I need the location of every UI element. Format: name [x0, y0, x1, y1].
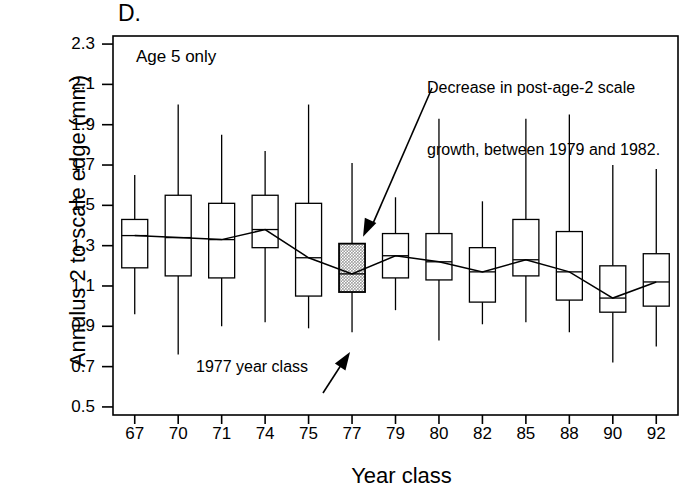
box — [296, 203, 322, 296]
box — [426, 234, 452, 280]
box — [513, 219, 539, 275]
box — [252, 195, 278, 247]
box — [643, 254, 669, 306]
year-class-annotation-arrow-head — [335, 352, 350, 370]
box — [165, 195, 191, 276]
box — [122, 219, 148, 267]
year-class-annotation-text: 1977 year class — [196, 357, 308, 378]
box — [209, 203, 235, 278]
decrease-annotation-text: Decrease in post-age-2 scale growth, bet… — [427, 36, 660, 202]
box — [556, 232, 582, 301]
series-note-label: Age 5 only — [136, 46, 216, 68]
box-highlighted — [339, 244, 365, 292]
decrease-annotation-line1: Decrease in post-age-2 scale — [427, 78, 660, 99]
box — [469, 248, 495, 302]
decrease-annotation-arrow-shaft — [372, 88, 432, 226]
box — [600, 266, 626, 312]
boxplot-figure: D. Annulus 2 to scale edge (mm) Year cla… — [0, 0, 693, 502]
decrease-annotation-line2: growth, between 1979 and 1982. — [427, 140, 660, 161]
